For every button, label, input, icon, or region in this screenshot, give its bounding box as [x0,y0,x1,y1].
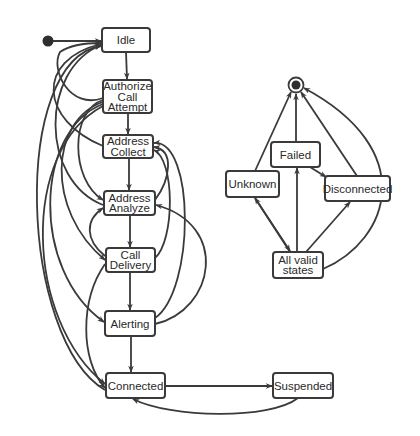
state-label: Analyze [109,202,150,214]
states: IdleAuthorizeCallAttemptAddressCollectAd… [102,28,392,398]
state-diagram: IdleAuthorizeCallAttemptAddressCollectAd… [0,0,420,436]
transition-analyze-to-collect [154,147,168,200]
state-label: states [283,264,314,276]
state-authorize: AuthorizeCallAttempt [103,80,152,113]
transition-collect-to-idle [54,44,103,146]
state-label: Delivery [110,259,152,271]
state-delivery: CallDelivery [106,248,155,272]
initial-state [43,36,54,47]
state-label: Failed [280,149,311,161]
final-state [289,78,304,93]
state-idle: Idle [102,28,150,52]
state-alerting: Alerting [105,311,155,336]
state-label: Alerting [111,318,150,330]
state-analyze: AddressAnalyze [104,191,155,215]
transition-connected-to-idle [37,46,105,390]
state-allvalid: All validstates [273,252,323,278]
transition-authorize-to-delivery [62,102,105,260]
transition-failed-to-disconnected [310,167,326,177]
state-label: Attempt [108,101,148,113]
state-disconnected: Disconnected [323,176,393,201]
state-failed: Failed [271,142,320,167]
transition-alerting-to-collect [154,143,185,318]
state-label: Disconnected [323,183,393,195]
transitions [37,41,382,414]
state-label: Unknown [229,178,277,190]
state-unknown: Unknown [226,171,279,197]
state-suspended: Suspended [273,373,333,398]
transition-idle-to-authorize [126,52,127,79]
state-label: Idle [117,34,136,46]
state-label: Collect [110,146,146,158]
state-label: Connected [108,380,164,392]
transition-allvalid-to-disconnected [306,202,350,252]
transition-suspended-to-connected [133,398,298,414]
state-collect: AddressCollect [103,135,153,158]
transition-unknown-to-allvalid [255,198,290,251]
state-connected: Connected [106,373,165,398]
state-label: Suspended [274,380,332,392]
